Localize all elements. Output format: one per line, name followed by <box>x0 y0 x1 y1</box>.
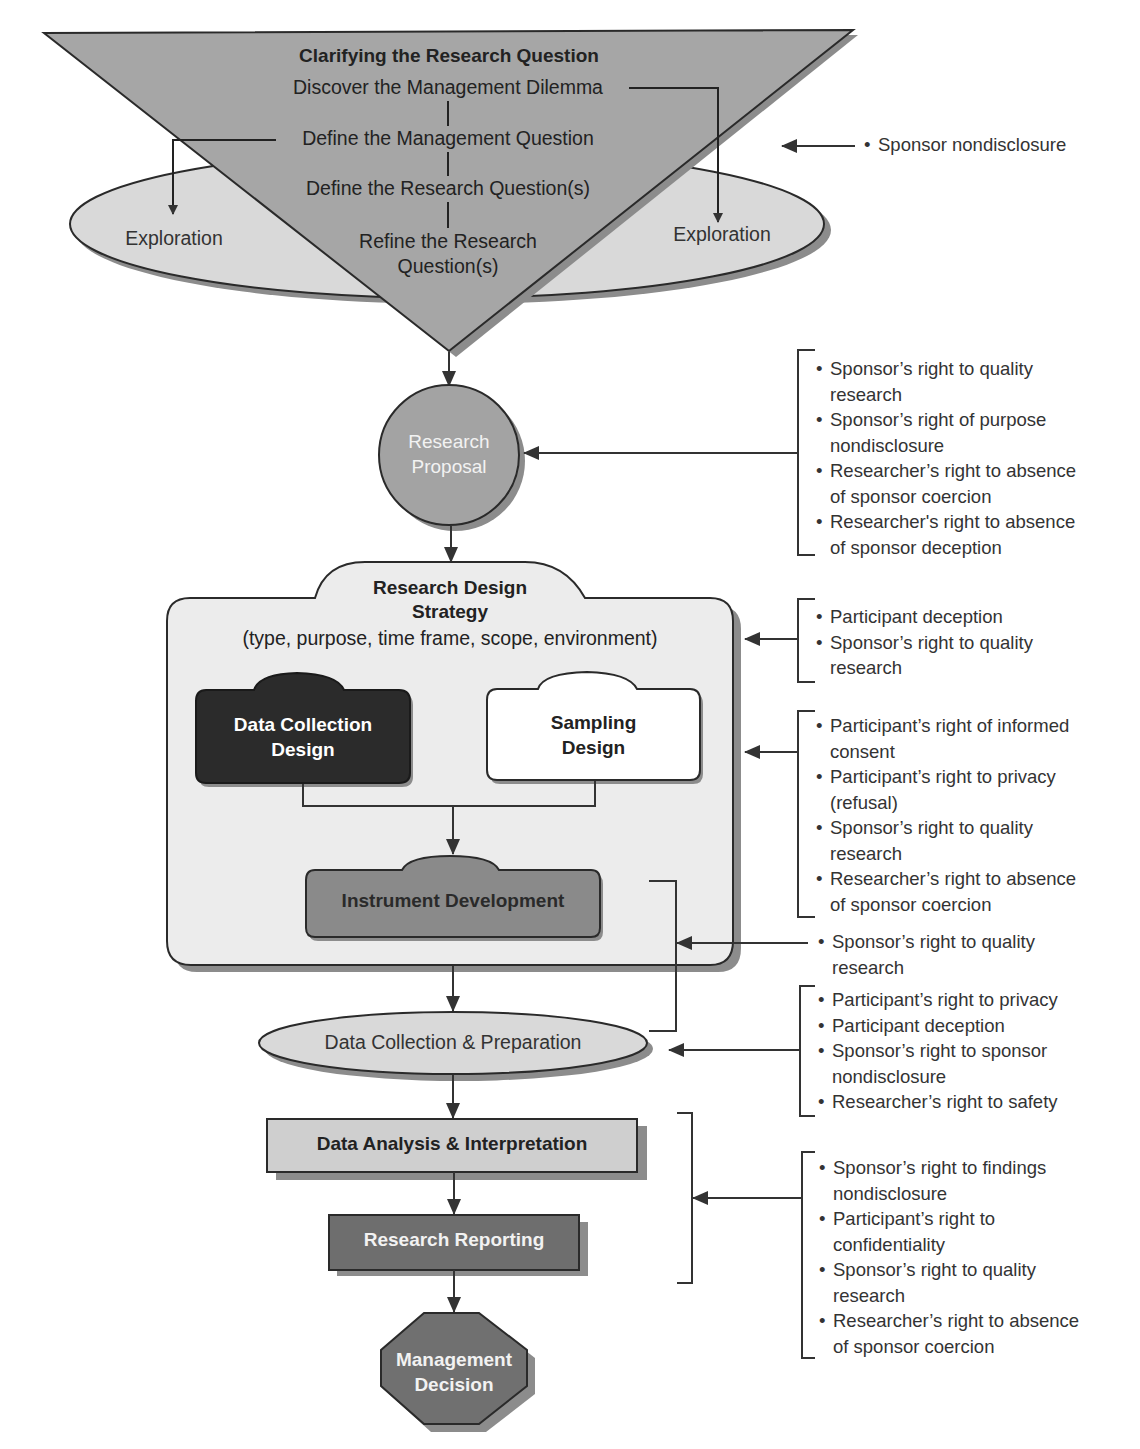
funnel-step-define-research: Define the Research Question(s) <box>268 177 628 200</box>
ethics-list-proposal: Sponsor’s right to quality research Spon… <box>816 356 1076 560</box>
bracket-proposal <box>524 350 815 555</box>
ethics-item: Sponsor’s right to findings nondisclosur… <box>819 1155 1079 1206</box>
ethics-list-funnel: Sponsor nondisclosure <box>864 132 1066 158</box>
data-collection-design-label: Data Collection Design <box>196 712 410 762</box>
ethics-item: Researcher’s right to absence of sponsor… <box>819 1308 1079 1359</box>
ethics-list-data-collection: Participant’s right to privacy Participa… <box>818 987 1058 1115</box>
research-reporting-label: Research Reporting <box>329 1229 579 1252</box>
bracket-analysis-reporting <box>677 1113 815 1358</box>
management-decision-label: Management Decision <box>381 1347 527 1397</box>
ethics-list-instrument: Sponsor’s right to quality research <box>818 929 1035 980</box>
funnel-step-refine: Refine the Research Question(s) <box>318 229 578 279</box>
ethics-item: Sponsor’s right to quality research <box>819 1257 1079 1308</box>
data-collection-preparation-label: Data Collection & Preparation <box>270 1031 636 1054</box>
exploration-left-label: Exploration <box>104 227 244 250</box>
bracket-sampling <box>745 711 815 917</box>
ethics-item: Participant’s right to confidentiality <box>819 1206 1079 1257</box>
ethics-item: Sponsor nondisclosure <box>864 132 1066 158</box>
ethics-item: Participant’s right to privacy (refusal) <box>816 764 1076 815</box>
ethics-item: Sponsor’s right to quality research <box>816 630 1033 681</box>
ethics-item: Participant’s right to privacy <box>818 987 1058 1013</box>
bracket-design-strategy <box>745 599 815 682</box>
ethics-item: Researcher’s right to absence of sponsor… <box>816 866 1076 917</box>
ethics-item: Researcher's right to absence of sponsor… <box>816 509 1076 560</box>
funnel-step-discover: Discover the Management Dilemma <box>258 76 638 99</box>
ethics-item: Researcher’s right to safety <box>818 1089 1058 1115</box>
ethics-item: Sponsor’s right to sponsor nondisclosure <box>818 1038 1058 1089</box>
funnel-step-define-management: Define the Management Question <box>262 127 634 150</box>
ethics-item: Participant’s right of informed consent <box>816 713 1076 764</box>
design-strategy-subtitle: (type, purpose, time frame, scope, envir… <box>190 627 710 650</box>
instrument-development-label: Instrument Development <box>306 890 600 913</box>
ethics-item: Participant deception <box>818 1013 1058 1039</box>
research-proposal-label: Research Proposal <box>389 429 509 479</box>
funnel-title: Clarifying the Research Question <box>246 45 652 68</box>
sampling-design-label: Sampling Design <box>487 710 700 760</box>
ethics-list-sampling: Participant’s right of informed consent … <box>816 713 1076 917</box>
ethics-item: Sponsor’s right to quality research <box>816 356 1076 407</box>
ethics-item: Sponsor’s right to quality research <box>818 929 1035 980</box>
data-analysis-label: Data Analysis & Interpretation <box>267 1133 637 1156</box>
bracket-data-collection <box>669 986 815 1116</box>
ethics-list-analysis-reporting: Sponsor’s right to findings nondisclosur… <box>819 1155 1079 1359</box>
ethics-item: Sponsor’s right of purpose nondisclosure <box>816 407 1076 458</box>
ethics-list-design-strategy: Participant deception Sponsor’s right to… <box>816 604 1033 681</box>
ethics-item: Sponsor’s right to quality research <box>816 815 1076 866</box>
design-strategy-title: Research Design Strategy <box>330 576 570 624</box>
exploration-right-label: Exploration <box>652 223 792 246</box>
ethics-item: Researcher’s right to absence of sponsor… <box>816 458 1076 509</box>
ethics-item: Participant deception <box>816 604 1033 630</box>
